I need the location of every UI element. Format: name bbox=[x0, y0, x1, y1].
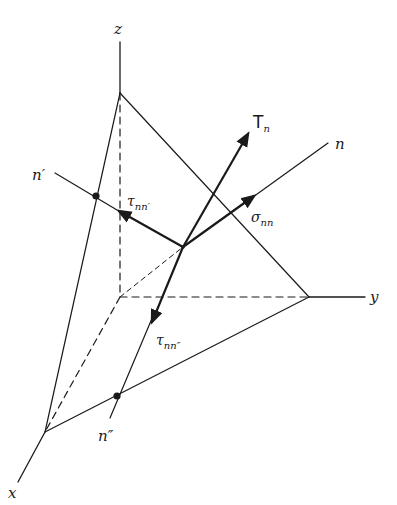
shear-stress-nn-double-prime-label: τnn″ bbox=[156, 332, 181, 351]
normal-stress-arrow bbox=[183, 196, 254, 247]
normal-direction-line bbox=[253, 143, 328, 197]
traction-vector-label: Tn bbox=[252, 112, 270, 134]
edge-z-to-y bbox=[120, 93, 309, 297]
x-axis bbox=[18, 432, 45, 482]
shear-stress-nn-prime-subscript: nn′ bbox=[135, 201, 151, 212]
n-double-prime-line-outer bbox=[110, 316, 153, 418]
center-point bbox=[181, 245, 185, 249]
n-direction-label: n bbox=[335, 135, 345, 153]
normal-stress-symbol: σ bbox=[251, 209, 261, 225]
x-axis-label: x bbox=[8, 484, 17, 502]
n-prime-line-outer bbox=[55, 173, 117, 210]
edge-y-to-x bbox=[45, 297, 309, 432]
normal-stress-label: σnn bbox=[251, 209, 273, 228]
hidden-edge-x bbox=[45, 297, 120, 432]
n-prime-label: n′ bbox=[32, 166, 46, 184]
shear-stress-nn-double-prime-subscript: nn″ bbox=[164, 340, 181, 351]
traction-vector-arrow bbox=[183, 134, 248, 247]
shear-stress-nn-prime-arrow bbox=[119, 211, 183, 247]
n-double-prime-label: n″ bbox=[98, 427, 114, 445]
y-axis-label: y bbox=[369, 288, 379, 306]
n-prime-intersection-dot bbox=[92, 192, 99, 199]
edge-x-to-z bbox=[45, 93, 120, 432]
z-axis-label: z bbox=[113, 20, 122, 38]
shear-stress-nn-prime-label: τnn′ bbox=[127, 193, 151, 212]
traction-symbol: T bbox=[252, 112, 264, 132]
shear-stress-nn-double-prime-arrow bbox=[152, 247, 183, 322]
n-double-prime-intersection-dot bbox=[113, 392, 120, 399]
normal-stress-subscript: nn bbox=[261, 217, 274, 228]
stress-tetrahedron-diagram: z y x n n′ n″ Tn σnn τnn′ τnn″ bbox=[0, 0, 397, 505]
traction-subscript: n bbox=[263, 123, 269, 134]
